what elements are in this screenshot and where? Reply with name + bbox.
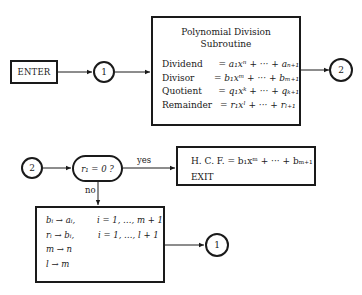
assignment: bᵢ → aᵢ, (46, 213, 97, 228)
equation-label: Remainder (162, 99, 220, 113)
equation-label: Quotient (162, 85, 218, 99)
assignment-row: rᵢ → bᵢ, i = 1, …, l + 1 (46, 228, 163, 243)
assignment-range: i = 1, …, m + 1 (97, 213, 163, 228)
update-coefficients-box: bᵢ → aᵢ, i = 1, …, m + 1 rᵢ → bᵢ, i = 1,… (35, 206, 165, 283)
hcf-result: H. C. F. = b₁xᵐ + ··· + bₘ₊₁ (191, 153, 314, 169)
connector-1-top-label: 1 (101, 67, 107, 77)
assignment-row: l → m (46, 257, 163, 272)
hcf-exit-box: H. C. F. = b₁xᵐ + ··· + bₘ₊₁ EXIT (176, 146, 316, 186)
equation-dividend: Dividend = a₁xⁿ + ··· + aₙ₊₁ (162, 58, 299, 72)
assignment: m → n (46, 242, 98, 257)
decision-remainder-zero: r₁ = 0 ? (72, 155, 123, 182)
connector-1-bottom-label: 1 (214, 240, 220, 250)
equation-value: = b₁xᵐ + ··· + bₘ₊₁ (214, 72, 299, 86)
subroutine-title-line2: Subroutine (153, 38, 299, 50)
no-branch-label: no (85, 185, 96, 195)
connector-1-top: 1 (93, 61, 115, 83)
equation-remainder: Remainder = r₁xˡ + ··· + rₗ₊₁ (162, 99, 299, 113)
polynomial-division-subroutine-box: Polynomial Division Subroutine Dividend … (151, 16, 301, 126)
connector-2-top-label: 2 (338, 65, 344, 75)
equation-label: Divisor (162, 72, 214, 86)
connector-2-top: 2 (329, 58, 353, 82)
equation-value: = a₁xⁿ + ··· + aₙ₊₁ (218, 58, 299, 72)
assignment-row: bᵢ → aᵢ, i = 1, …, m + 1 (46, 213, 163, 228)
enter-terminal: ENTER (10, 60, 58, 84)
equation-value: = r₁xˡ + ··· + rₗ₊₁ (220, 99, 296, 113)
connector-2-bottom-label: 2 (29, 163, 35, 173)
subroutine-equations: Dividend = a₁xⁿ + ··· + aₙ₊₁ Divisor = b… (162, 58, 299, 112)
connector-1-bottom: 1 (205, 233, 229, 257)
equation-quotient: Quotient = q₁xᵏ + ··· + qₖ₊₁ (162, 85, 299, 99)
yes-branch-label: yes (137, 155, 151, 165)
assignment: rᵢ → bᵢ, (46, 228, 98, 243)
exit-label: EXIT (191, 169, 314, 185)
assignment-range: i = 1, …, l + 1 (98, 228, 159, 243)
flowchart-canvas: ENTER 1 Polynomial Division Subroutine D… (0, 0, 362, 295)
decision-label: r₁ = 0 ? (81, 164, 114, 174)
enter-label: ENTER (18, 67, 51, 77)
equation-value: = q₁xᵏ + ··· + qₖ₊₁ (218, 85, 299, 99)
connector-2-bottom: 2 (21, 157, 43, 179)
assignment-row: m → n (46, 242, 163, 257)
equation-divisor: Divisor = b₁xᵐ + ··· + bₘ₊₁ (162, 72, 299, 86)
subroutine-title: Polynomial Division Subroutine (153, 26, 299, 50)
equation-label: Dividend (162, 58, 218, 72)
subroutine-title-line1: Polynomial Division (153, 26, 299, 38)
assignment: l → m (46, 257, 98, 272)
